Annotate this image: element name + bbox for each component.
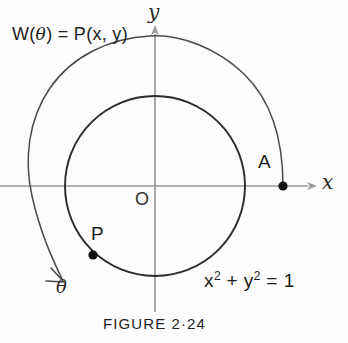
equation-y: y [244, 270, 254, 291]
equation-plus: + [221, 270, 244, 291]
equation-exponent-y: 2 [254, 269, 261, 283]
winding-suffix: ) = P(x, y) [46, 24, 128, 44]
angle-theta-label: θ [56, 278, 67, 296]
figure-container: W(θ) = P(x, y) y x A P O θ x2 + y2 = 1 F… [0, 0, 348, 343]
figure-caption: FIGURE 2·24 [103, 316, 206, 331]
equation-exponent-x: 2 [214, 269, 221, 283]
y-axis-label: y [148, 2, 159, 22]
point-p-dot [88, 250, 97, 259]
x-axis-label: x [322, 172, 333, 192]
point-a-dot [278, 181, 287, 190]
equation-x: x [204, 270, 214, 291]
theta-glyph: θ [36, 24, 47, 44]
winding-function-label: W(θ) = P(x, y) [12, 25, 128, 43]
circle-equation-label: x2 + y2 = 1 [204, 270, 295, 290]
equation-equals-one: = 1 [261, 270, 295, 291]
winding-prefix: W( [12, 24, 36, 44]
origin-label: O [135, 190, 149, 208]
point-a-label: A [258, 152, 271, 171]
point-p-label: P [91, 224, 104, 243]
figure-drawing [0, 0, 348, 343]
